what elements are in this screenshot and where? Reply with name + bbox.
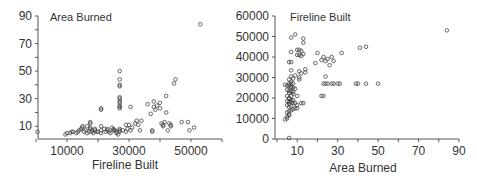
y-tick-label: 90: [19, 9, 33, 23]
data-point: [138, 129, 142, 133]
data-point: [166, 129, 170, 133]
data-point: [293, 74, 297, 78]
data-point: [332, 59, 336, 63]
data-point: [289, 69, 293, 73]
data-point: [129, 105, 133, 109]
y-tick-label: 30000: [236, 71, 270, 85]
right-axes: 0100002000030000400005000060000103050709…: [236, 9, 466, 158]
x-tick-label: 70: [412, 144, 426, 158]
data-point: [118, 78, 122, 82]
data-point: [186, 120, 190, 124]
data-point: [289, 50, 293, 54]
data-point: [172, 82, 176, 86]
data-point: [192, 126, 196, 130]
data-point: [330, 55, 334, 59]
data-point: [324, 75, 328, 79]
data-point: [340, 51, 344, 55]
data-point: [118, 69, 122, 73]
data-point: [314, 61, 318, 65]
data-point: [146, 102, 150, 106]
left-data-points: [36, 22, 202, 136]
data-point: [158, 107, 162, 111]
data-point: [301, 41, 305, 45]
data-point: [152, 100, 156, 104]
scatter-plots: Area Burned 1030507090100003000050000 Fi…: [0, 0, 477, 180]
y-tick-label: 0: [262, 132, 269, 146]
data-point: [316, 51, 320, 55]
data-point: [322, 55, 326, 59]
x-tick-label: 90: [452, 144, 466, 158]
data-point: [293, 33, 297, 37]
y-tick-label: 50000: [236, 30, 270, 44]
data-point: [137, 123, 141, 127]
y-tick-label: 10000: [236, 112, 270, 126]
scatter-plot-fireline-vs-area: Fireline Built 0100002000030000400005000…: [236, 9, 466, 175]
y-tick-label: 30: [19, 92, 33, 106]
data-point: [199, 22, 203, 26]
data-point: [328, 63, 332, 67]
y-tick-label: 50: [19, 64, 33, 78]
data-point: [364, 45, 368, 49]
data-point: [289, 36, 293, 40]
data-point: [164, 111, 168, 115]
data-point: [155, 104, 159, 108]
x-axis-label-left: Fireline Built: [92, 158, 159, 172]
x-tick-label: 10000: [50, 144, 84, 158]
y-tick-label: 20000: [236, 91, 270, 105]
plot-title-left: Area Burned: [50, 11, 112, 23]
data-point: [445, 29, 449, 33]
data-point: [358, 46, 362, 50]
plot-title-right: Fireline Built: [290, 11, 351, 23]
x-tick-label: 10: [291, 144, 305, 158]
x-tick-label: 50000: [174, 144, 208, 158]
data-point: [85, 124, 89, 128]
y-tick-label: 70: [19, 37, 33, 51]
data-point: [99, 124, 103, 128]
x-tick-label: 30: [331, 144, 345, 158]
data-point: [295, 94, 299, 98]
data-point: [376, 82, 380, 86]
data-point: [180, 120, 184, 124]
y-tick-label: 10: [19, 119, 33, 133]
data-point: [149, 112, 153, 116]
x-tick-label: 50: [371, 144, 385, 158]
data-point: [174, 78, 178, 82]
right-data-points: [283, 29, 448, 140]
data-point: [158, 101, 162, 105]
y-tick-label: 60000: [236, 9, 270, 23]
data-point: [164, 94, 168, 98]
data-point: [188, 129, 192, 133]
y-tick-label: 40000: [236, 50, 270, 64]
x-axis-label-right: Area Burned: [329, 161, 396, 175]
x-tick-label: 30000: [112, 144, 146, 158]
data-point: [301, 37, 305, 41]
scatter-plot-area-vs-fireline: Area Burned 1030507090100003000050000 Fi…: [19, 9, 222, 172]
data-point: [364, 82, 368, 86]
data-point: [140, 119, 144, 123]
